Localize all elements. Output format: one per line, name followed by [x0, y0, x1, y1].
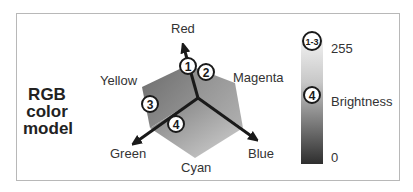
marker-4: 4: [168, 116, 184, 132]
svg-text:2: 2: [203, 66, 210, 80]
marker-2: 2: [198, 64, 214, 80]
label-blue: Blue: [248, 146, 274, 161]
marker-3: 3: [142, 96, 158, 112]
svg-text:1-3: 1-3: [305, 37, 318, 47]
rgb-cube-diagram: Red Yellow Magenta Green Cyan Blue 1 2 3…: [0, 0, 413, 192]
label-red: Red: [171, 21, 195, 36]
brightness-axis-label: Brightness: [331, 94, 393, 109]
label-green: Green: [110, 146, 146, 161]
bar-marker-4: 4: [304, 87, 320, 103]
marker-1: 1: [180, 58, 196, 74]
svg-text:4: 4: [173, 118, 180, 132]
label-yellow: Yellow: [100, 73, 138, 88]
svg-text:1: 1: [185, 60, 192, 74]
label-magenta: Magenta: [233, 70, 284, 85]
brightness-min-label: 0: [331, 150, 338, 165]
bar-marker-1-3: 1-3: [303, 32, 321, 50]
label-cyan: Cyan: [181, 160, 211, 175]
svg-text:4: 4: [309, 89, 316, 103]
brightness-max-label: 255: [331, 41, 353, 56]
svg-text:3: 3: [147, 98, 154, 112]
